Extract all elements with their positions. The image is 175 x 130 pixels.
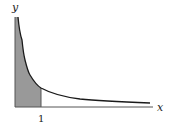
y-axis-label: y — [11, 1, 19, 14]
x-tick-label-1: 1 — [38, 113, 44, 124]
function-graph: y x 1 — [0, 0, 175, 130]
shaded-area — [15, 17, 41, 107]
x-axis-label: x — [157, 101, 164, 114]
